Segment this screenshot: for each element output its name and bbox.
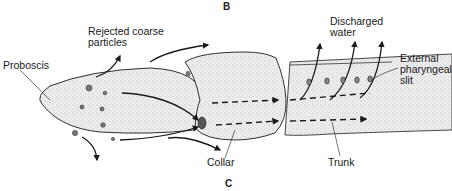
label-collar: Collar: [207, 157, 234, 168]
label-rejected-particles: Rejected coarse particles: [88, 26, 164, 48]
proboscis-body: [40, 68, 205, 133]
label-external-pharyngeal-slit: External pharyngeal slit: [400, 53, 452, 86]
panel-label-b: B: [223, 1, 230, 12]
label-trunk: Trunk: [328, 157, 354, 168]
label-proboscis: Proboscis: [3, 60, 49, 71]
label-discharged-water: Discharged water: [330, 16, 383, 38]
panel-label-c: C: [225, 178, 232, 189]
